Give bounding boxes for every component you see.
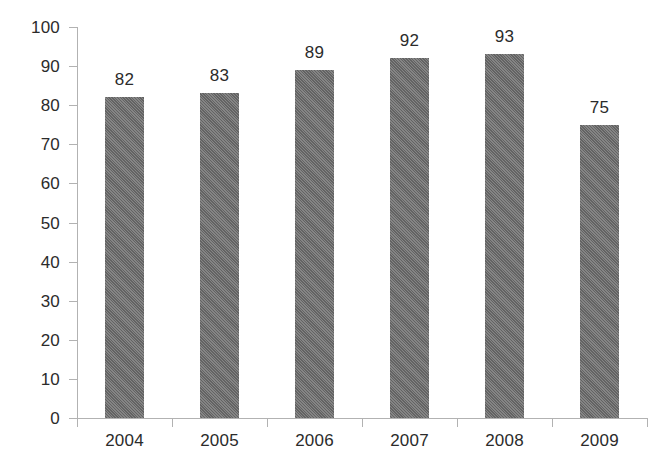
x-axis-category-label: 2008 [457, 432, 552, 450]
y-axis-tick [69, 379, 77, 380]
y-axis-tick-label: 100 [14, 19, 60, 36]
y-axis-tick-label: 70 [14, 136, 60, 153]
x-axis-tick [267, 419, 268, 427]
y-axis-tick [69, 418, 77, 419]
x-axis-tick [647, 419, 648, 427]
bar [485, 54, 524, 418]
y-axis-tick-label: 80 [14, 97, 60, 114]
x-axis-tick [552, 419, 553, 427]
y-axis-tick [69, 105, 77, 106]
bar [580, 125, 619, 418]
y-axis-tick [69, 144, 77, 145]
y-axis-tick-label: 10 [14, 371, 60, 388]
bar [105, 97, 144, 418]
y-axis-tick [69, 340, 77, 341]
y-axis-tick [69, 183, 77, 184]
y-axis-tick-label: 60 [14, 175, 60, 192]
y-axis-tick [69, 262, 77, 263]
y-axis-tick [69, 66, 77, 67]
bar [200, 93, 239, 418]
bar-chart: 0102030405060708090100 20042005200620072… [0, 0, 656, 473]
x-axis-category-label: 2006 [267, 432, 362, 450]
bar-value-label: 82 [77, 71, 172, 88]
y-axis-tick [69, 27, 77, 28]
x-axis-category-label: 2005 [172, 432, 267, 450]
y-axis-tick-label: 0 [14, 410, 60, 427]
y-axis-tick-label: 90 [14, 58, 60, 75]
x-axis-tick [362, 419, 363, 427]
y-axis-tick [69, 301, 77, 302]
x-axis-category-label: 2007 [362, 432, 457, 450]
y-axis-tick-label: 30 [14, 293, 60, 310]
x-axis-tick [77, 419, 78, 427]
bar-value-label: 89 [267, 44, 362, 61]
bar [390, 58, 429, 418]
bar [295, 70, 334, 418]
x-axis-tick [457, 419, 458, 427]
y-axis-tick-label: 20 [14, 332, 60, 349]
x-axis-tick [172, 419, 173, 427]
bar-value-label: 75 [552, 99, 647, 116]
x-axis-category-label: 2009 [552, 432, 647, 450]
y-axis-tick [69, 223, 77, 224]
bar-value-label: 93 [457, 28, 552, 45]
y-axis-tick-label: 50 [14, 215, 60, 232]
bar-value-label: 83 [172, 67, 267, 84]
x-axis-category-label: 2004 [77, 432, 172, 450]
y-axis-tick-label: 40 [14, 254, 60, 271]
bar-value-label: 92 [362, 32, 457, 49]
